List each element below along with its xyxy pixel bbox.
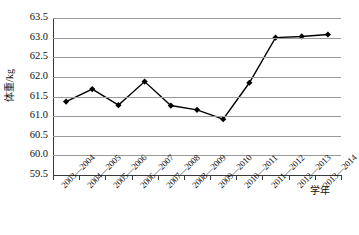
- gridline: [53, 97, 341, 98]
- gridline: [53, 77, 341, 78]
- y-tick-label: 63.5: [14, 12, 48, 23]
- plot-area: [53, 18, 341, 175]
- gridline: [53, 38, 341, 39]
- y-tick-label: 61.5: [14, 91, 48, 102]
- gridline: [53, 57, 341, 58]
- y-tick-label: 59.5: [14, 169, 48, 180]
- data-point-marker: [194, 107, 200, 113]
- gridline: [53, 136, 341, 137]
- y-tick-label: 60.0: [14, 149, 48, 160]
- gridline: [53, 116, 341, 117]
- data-point-marker: [63, 99, 69, 105]
- y-tick-label: 61.0: [14, 110, 48, 121]
- gridline: [53, 18, 341, 19]
- y-tick-label: 63.0: [14, 32, 48, 43]
- x-tick: [132, 176, 133, 180]
- x-tick: [53, 176, 54, 180]
- y-tick-label: 60.5: [14, 130, 48, 141]
- data-point-marker: [89, 86, 95, 92]
- x-tick: [262, 176, 263, 180]
- y-tick-label: 62.0: [14, 71, 48, 82]
- y-tick-label: 62.5: [14, 51, 48, 62]
- y-axis-tick-labels: 63.563.062.562.061.561.060.560.059.5: [14, 0, 48, 235]
